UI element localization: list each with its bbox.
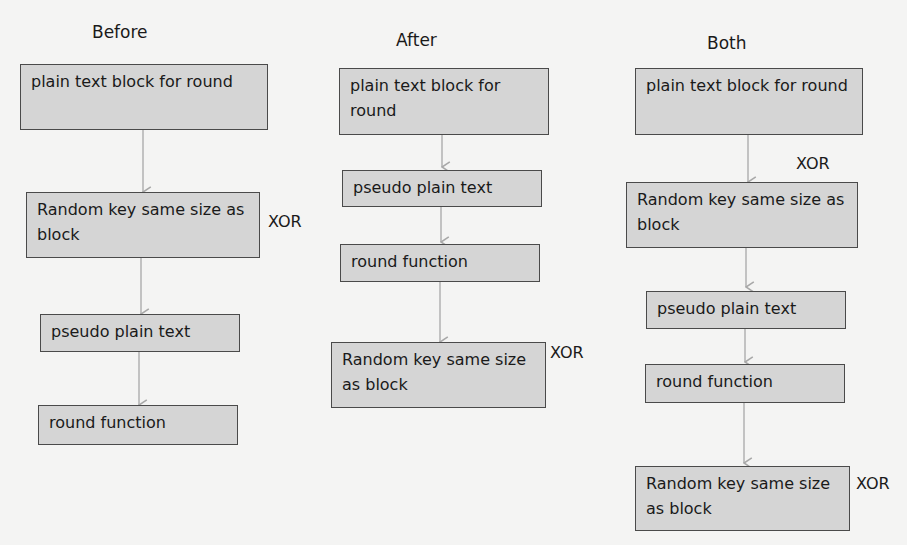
- plain-text-block-box: plain text block for round: [20, 64, 268, 130]
- random-key-box: Random key same size as block: [626, 182, 858, 248]
- xor-label: XOR: [796, 154, 830, 173]
- round-function-box: round function: [645, 364, 845, 403]
- xor-label: XOR: [856, 474, 890, 493]
- pseudo-plain-text-box: pseudo plain text: [342, 170, 542, 207]
- pseudo-plain-text-box: pseudo plain text: [646, 291, 846, 329]
- round-function-box: round function: [340, 244, 540, 282]
- random-key-box: Random key same size as block: [635, 466, 850, 531]
- plain-text-block-box: plain text block for round: [635, 68, 863, 135]
- xor-label: XOR: [550, 343, 584, 362]
- xor-label: XOR: [268, 212, 302, 231]
- column-title-both: Both: [707, 33, 747, 53]
- plain-text-block-box: plain text block for round: [339, 68, 549, 135]
- random-key-box: Random key same size as block: [26, 192, 260, 258]
- random-key-box: Random key same size as block: [331, 342, 546, 408]
- pseudo-plain-text-box: pseudo plain text: [40, 314, 240, 352]
- column-title-after: After: [396, 30, 437, 50]
- round-function-box: round function: [38, 405, 238, 445]
- column-title-before: Before: [92, 22, 148, 42]
